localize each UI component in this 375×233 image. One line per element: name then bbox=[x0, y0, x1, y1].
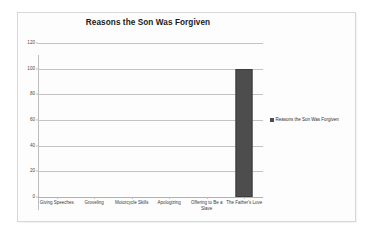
bar-slot bbox=[113, 43, 151, 197]
x-tick-mark bbox=[244, 197, 245, 199]
y-tick-label: 80 bbox=[30, 92, 35, 97]
plot-area: 020406080100120 Giving SpeechesGroveling… bbox=[38, 43, 263, 197]
bar-slot bbox=[38, 43, 76, 197]
bar-series bbox=[38, 43, 263, 197]
x-tick-mark bbox=[132, 197, 133, 199]
bar-slot bbox=[151, 43, 189, 197]
legend-label: Reasons the Son Was Forgiven bbox=[276, 118, 339, 123]
x-tick-mark bbox=[169, 197, 170, 199]
x-tick-mark bbox=[207, 197, 208, 199]
y-tick-label: 100 bbox=[27, 66, 35, 71]
chart-frame: Reasons the Son Was Forgiven 02040608010… bbox=[17, 12, 356, 222]
y-tick-label: 0 bbox=[32, 195, 35, 200]
legend-swatch-icon bbox=[270, 118, 274, 122]
x-axis-category-label: Giving Speeches bbox=[36, 200, 78, 206]
y-tick-label: 20 bbox=[30, 169, 35, 174]
x-tick-mark bbox=[57, 197, 58, 199]
x-axis-category-label: Offering to Be a Slave bbox=[186, 200, 228, 212]
chart-title: Reasons the Son Was Forgiven bbox=[18, 18, 278, 27]
x-axis-category-label: Motorcycle Skills bbox=[111, 200, 153, 206]
y-tick-label: 40 bbox=[30, 143, 35, 148]
bar-slot bbox=[76, 43, 114, 197]
x-tick-mark bbox=[94, 197, 95, 199]
gridline bbox=[38, 197, 263, 198]
y-tick-label: 120 bbox=[27, 41, 35, 46]
bar-slot bbox=[226, 43, 264, 197]
chart-legend: Reasons the Son Was Forgiven bbox=[270, 118, 339, 123]
bar-slot bbox=[188, 43, 226, 197]
x-axis-category-label: The Father's Love bbox=[223, 200, 265, 206]
y-tick-label: 60 bbox=[30, 118, 35, 123]
x-axis-category-label: Groveling bbox=[73, 200, 115, 206]
x-axis-category-label: Apologizing bbox=[148, 200, 190, 206]
bar bbox=[236, 69, 253, 197]
